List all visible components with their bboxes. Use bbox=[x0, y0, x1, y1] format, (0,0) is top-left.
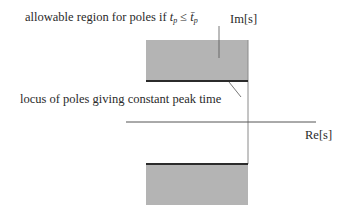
allowable-region-label: allowable region for poles if tp ≤ t̄p bbox=[25, 11, 198, 25]
im-axis-label: Im[s] bbox=[230, 13, 257, 26]
s-plane-diagram bbox=[0, 0, 346, 215]
locus-label: locus of poles giving constant peak time bbox=[20, 93, 221, 106]
allowable-region-text: allowable region for poles if bbox=[25, 10, 170, 24]
upper-allowable-region bbox=[146, 40, 248, 81]
re-axis-label: Re[s] bbox=[305, 129, 332, 142]
lower-allowable-region bbox=[146, 164, 248, 205]
tbar-subscript: p bbox=[194, 16, 198, 25]
locus-leader-line bbox=[229, 82, 241, 97]
leq-symbol: ≤ bbox=[177, 10, 190, 24]
